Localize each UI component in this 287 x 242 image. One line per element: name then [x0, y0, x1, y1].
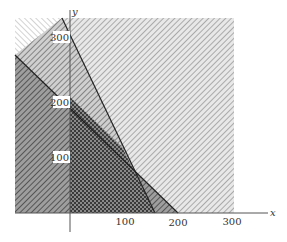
y-tick-100: 100 — [50, 151, 70, 163]
inequality-region-chart: 300 200 100 100 200 300 y x — [0, 0, 287, 242]
x-tick-300: 300 — [222, 216, 241, 227]
y-tick-200: 200 — [50, 96, 70, 108]
svg-text:300: 300 — [50, 32, 69, 43]
svg-text:100: 100 — [50, 152, 69, 163]
x-tick-100: 100 — [115, 216, 134, 227]
svg-text:200: 200 — [50, 97, 69, 108]
x-tick-200: 200 — [168, 217, 187, 228]
x-axis-label: x — [270, 207, 276, 218]
y-tick-300: 300 — [50, 31, 70, 43]
y-axis-label: y — [71, 6, 78, 17]
